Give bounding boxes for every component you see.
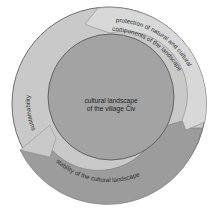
- center-label-line1: cultural landscape: [84, 97, 137, 105]
- cycle-diagram-svg: sustainability protection of natural and…: [0, 0, 218, 211]
- cycle-diagram: sustainability protection of natural and…: [0, 0, 218, 211]
- center-label-line2: of the village Čiv: [87, 104, 136, 113]
